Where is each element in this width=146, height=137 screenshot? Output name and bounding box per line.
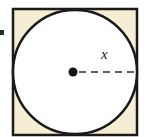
circle-in-square-diagram — [0, 0, 146, 137]
radius-label-x: x — [101, 47, 108, 62]
geometry-figure: x — [0, 0, 146, 137]
center-dot — [69, 68, 78, 77]
